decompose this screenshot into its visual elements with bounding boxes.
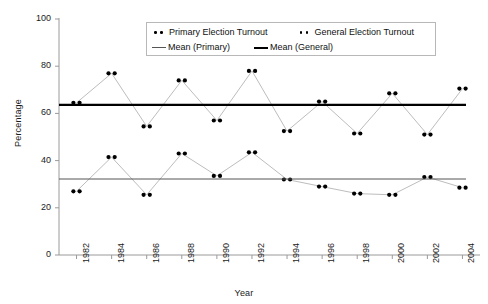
data-point-general <box>288 129 292 133</box>
y-tick-label: 80 <box>25 60 51 70</box>
primary-series-marker-icon <box>152 28 168 37</box>
x-tick-label: 1986 <box>151 243 161 263</box>
legend-label-mean-primary: Mean (Primary) <box>168 43 230 52</box>
x-tick-label: 1982 <box>81 243 91 263</box>
legend-label-primary-turnout: Primary Election Turnout <box>169 28 268 37</box>
data-point-primary <box>387 193 391 197</box>
x-tick-label: 2002 <box>431 243 441 263</box>
data-point-primary <box>358 192 362 196</box>
data-point-primary <box>352 192 356 196</box>
data-point-general <box>393 91 397 95</box>
mean-primary-line-icon <box>152 43 166 52</box>
legend-row-markers: Primary Election Turnout General Electio… <box>152 25 431 40</box>
x-axis-title: Year <box>0 288 488 298</box>
x-tick-label: 1984 <box>116 243 126 263</box>
data-point-primary <box>71 189 75 193</box>
y-tick-label: 20 <box>25 202 51 212</box>
data-point-primary <box>317 185 321 189</box>
data-point-primary <box>393 193 397 197</box>
chart-legend: Primary Election Turnout General Electio… <box>146 22 436 56</box>
data-point-general <box>253 69 257 73</box>
legend-item-mean-general: Mean (General) <box>254 43 333 52</box>
y-tick-label: 60 <box>25 107 51 117</box>
data-point-general <box>148 124 152 128</box>
series-line-general <box>77 71 463 135</box>
data-point-general <box>422 133 426 137</box>
data-point-primary <box>212 174 216 178</box>
data-point-general <box>464 87 468 91</box>
data-point-primary <box>148 193 152 197</box>
series-line-primary <box>77 152 463 195</box>
data-point-general <box>457 87 461 91</box>
data-point-general <box>142 124 146 128</box>
data-point-primary <box>113 155 117 159</box>
data-point-general <box>317 100 321 104</box>
data-point-general <box>177 78 181 82</box>
legend-label-general-turnout: General Election Turnout <box>315 28 415 37</box>
data-point-primary <box>323 185 327 189</box>
data-point-primary <box>142 193 146 197</box>
data-point-general <box>387 91 391 95</box>
data-point-primary <box>218 174 222 178</box>
general-series-marker-icon <box>298 28 314 37</box>
data-point-general <box>113 71 117 75</box>
data-point-primary <box>464 186 468 190</box>
y-tick-label: 0 <box>25 249 51 259</box>
data-point-general <box>247 69 251 73</box>
x-tick-label: 2000 <box>396 243 406 263</box>
data-point-general <box>352 131 356 135</box>
data-point-general <box>106 71 110 75</box>
legend-item-general-turnout: General Election Turnout <box>298 28 415 37</box>
data-point-general <box>212 118 216 122</box>
data-point-primary <box>457 186 461 190</box>
data-point-primary <box>183 151 187 155</box>
legend-label-mean-general: Mean (General) <box>270 43 333 52</box>
legend-item-mean-primary: Mean (Primary) <box>152 43 230 52</box>
x-tick-label: 1990 <box>221 243 231 263</box>
x-tick-label: 1988 <box>186 243 196 263</box>
data-point-primary <box>247 150 251 154</box>
data-point-general <box>323 100 327 104</box>
data-point-general <box>358 131 362 135</box>
x-tick-label: 1992 <box>256 243 266 263</box>
data-point-general <box>183 78 187 82</box>
data-point-primary <box>253 150 257 154</box>
data-point-primary <box>78 189 82 193</box>
y-tick-label: 100 <box>25 13 51 23</box>
data-point-primary <box>177 151 181 155</box>
x-tick-label: 1998 <box>361 243 371 263</box>
x-tick-label: 1996 <box>326 243 336 263</box>
mean-general-line-icon <box>254 43 268 52</box>
legend-row-means: Mean (Primary) Mean (General) <box>152 40 431 55</box>
y-axis-title: Percentage <box>13 83 23 163</box>
data-point-general <box>282 129 286 133</box>
data-point-primary <box>106 155 110 159</box>
legend-item-primary-turnout: Primary Election Turnout <box>152 28 268 37</box>
data-point-general <box>218 118 222 122</box>
x-tick-label: 1994 <box>291 243 301 263</box>
x-tick-label: 2004 <box>466 243 476 263</box>
y-tick-label: 40 <box>25 155 51 165</box>
data-point-general <box>428 133 432 137</box>
turnout-chart: Percentage Year 020406080100 19821984198… <box>0 0 488 304</box>
